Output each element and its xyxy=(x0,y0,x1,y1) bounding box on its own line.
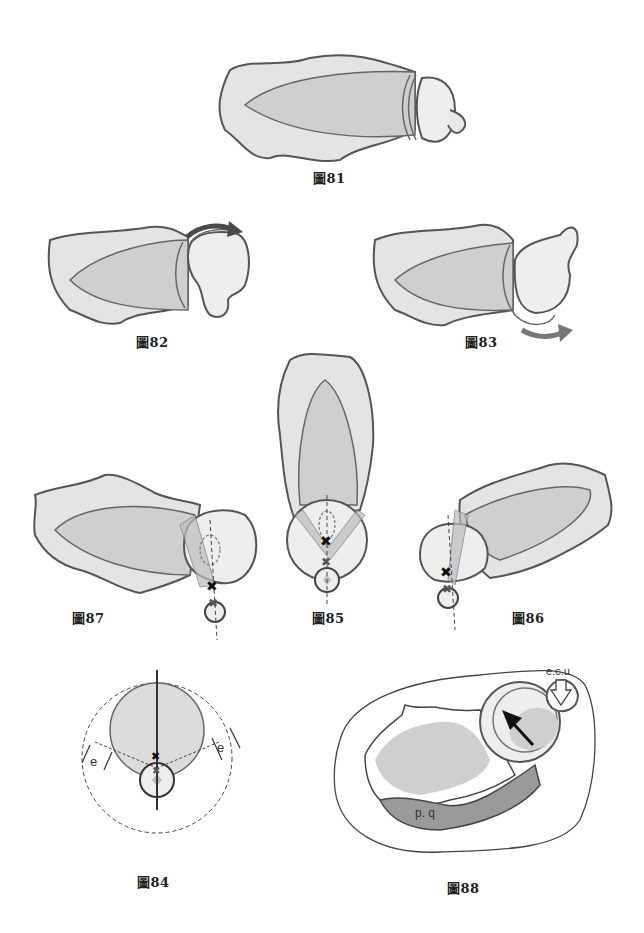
figure-84-diagram: e e ✖ ✖ xyxy=(70,660,260,830)
e-label-left: e xyxy=(90,754,97,769)
rotation-arrow-icon xyxy=(520,322,575,347)
figure-88-caption: 圖88 xyxy=(447,878,480,897)
svg-text:✖: ✖ xyxy=(208,596,218,610)
svg-text:✖: ✖ xyxy=(206,578,218,594)
figure-86-diagram: ✖ ✖ xyxy=(410,460,615,610)
svg-text:✖: ✖ xyxy=(442,582,452,596)
figure-85-diagram: ✖ ✖ xyxy=(265,345,390,610)
figure-87-caption: 圖87 xyxy=(72,608,105,627)
figure-81-diagram xyxy=(210,50,450,165)
figure-85-caption: 圖85 xyxy=(312,608,345,627)
figure-83-caption: 圖83 xyxy=(465,332,498,351)
figure-88-diagram: p. q e.c.u xyxy=(330,660,620,860)
svg-text:✖: ✖ xyxy=(152,765,160,776)
svg-text:✖: ✖ xyxy=(320,533,332,549)
figure-86-caption: 圖86 xyxy=(512,608,545,627)
figure-87-diagram: ✖ ✖ xyxy=(30,475,260,620)
clockwise-arrow-icon xyxy=(185,215,245,245)
pq-label: p. q xyxy=(415,806,435,820)
figure-82-caption: 圖82 xyxy=(136,332,169,351)
figure-83-diagram xyxy=(365,215,595,330)
e-label-right: e xyxy=(217,740,224,755)
svg-text:✖: ✖ xyxy=(151,750,160,763)
svg-text:✖: ✖ xyxy=(321,555,331,569)
svg-text:✖: ✖ xyxy=(440,564,452,580)
ecu-label: e.c.u xyxy=(546,665,570,677)
figure-84-caption: 圖84 xyxy=(137,872,170,891)
figure-81-caption: 圖81 xyxy=(313,168,346,187)
